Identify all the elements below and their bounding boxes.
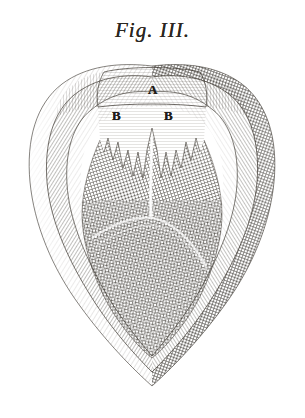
page-title: Fig. III. (0, 18, 305, 43)
figure-illustration (0, 0, 305, 418)
engraving-plate: Fig. III. (0, 0, 305, 418)
label-b-right: B (164, 108, 173, 124)
label-a: A (148, 82, 157, 98)
label-b-left: B (112, 108, 121, 124)
